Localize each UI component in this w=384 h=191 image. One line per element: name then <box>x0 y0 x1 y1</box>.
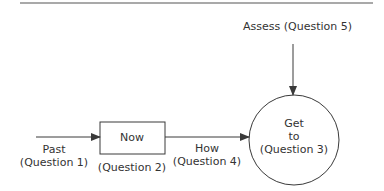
get-to-question-label: (Question 3) <box>260 143 328 156</box>
get-to-line2: to <box>288 130 299 143</box>
now-question-label: (Question 2) <box>98 161 166 174</box>
assess-label: Assess (Question 5) <box>243 20 352 33</box>
how-question-label: (Question 4) <box>173 155 241 168</box>
now-label: Now <box>120 131 144 144</box>
how-label: How <box>195 142 219 155</box>
past-label: Past <box>43 143 66 156</box>
get-to-line1: Get <box>284 117 304 130</box>
past-question-label: (Question 1) <box>20 156 88 169</box>
